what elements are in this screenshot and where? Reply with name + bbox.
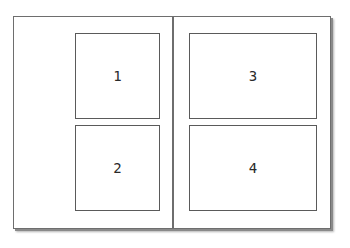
- box-label-1: 1: [113, 69, 121, 83]
- content-box-3: 3: [189, 33, 317, 119]
- box-label-2: 2: [113, 161, 121, 175]
- content-box-1: 1: [75, 33, 160, 119]
- content-box-2: 2: [75, 125, 160, 211]
- content-box-4: 4: [189, 125, 317, 211]
- box-label-4: 4: [249, 161, 257, 175]
- page-divider: [172, 16, 174, 229]
- box-label-3: 3: [249, 69, 257, 83]
